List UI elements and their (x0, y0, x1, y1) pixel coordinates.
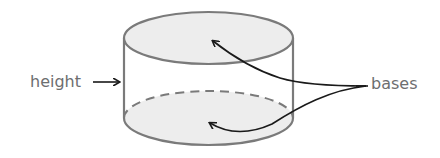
cylinder-diagram: height bases (0, 0, 440, 158)
height-label: height (30, 74, 81, 90)
top-base (124, 12, 293, 64)
bases-label: bases (371, 76, 417, 92)
bottom-base (124, 91, 293, 145)
